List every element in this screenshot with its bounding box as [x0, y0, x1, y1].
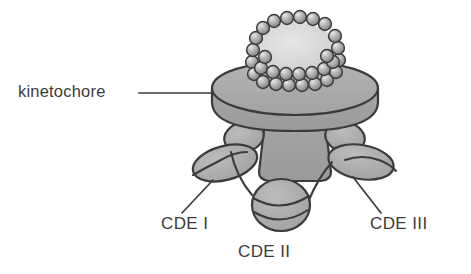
label-cde-3: CDE III: [370, 215, 428, 232]
cde1-leader: [182, 180, 213, 213]
nucleosome-bead-coil: [246, 11, 346, 92]
cde2-nucleosome: [252, 179, 310, 231]
label-cde-1: CDE I: [161, 215, 208, 232]
label-cde-2: CDE II: [238, 243, 290, 260]
label-kinetochore: kinetochore: [18, 83, 106, 100]
cde3-leader: [353, 177, 381, 213]
diagram-canvas: kinetochore CDE I CDE II CDE III: [0, 0, 471, 274]
